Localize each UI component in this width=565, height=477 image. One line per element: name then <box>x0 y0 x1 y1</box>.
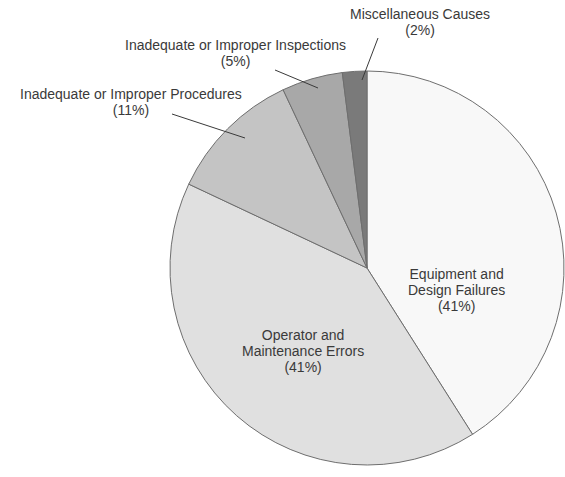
label-misc-name: Miscellaneous Causes <box>350 6 490 22</box>
label-equipment: Equipment and Design Failures (41%) <box>408 266 505 314</box>
label-inspections-pct: (5%) <box>125 53 346 69</box>
label-misc: Miscellaneous Causes (2%) <box>350 6 490 38</box>
pie-chart <box>0 0 565 477</box>
label-procedures-name: Inadequate or Improper Procedures <box>20 86 242 102</box>
label-misc-pct: (2%) <box>350 22 490 38</box>
label-operator-pct: (41%) <box>242 359 364 375</box>
label-inspections-name: Inadequate or Improper Inspections <box>125 37 346 53</box>
label-operator: Operator and Maintenance Errors (41%) <box>242 327 364 375</box>
label-equipment-pct: (41%) <box>408 298 505 314</box>
label-procedures: Inadequate or Improper Procedures (11%) <box>20 86 242 118</box>
label-equipment-line2: Design Failures <box>408 282 505 298</box>
label-procedures-pct: (11%) <box>20 102 242 118</box>
label-equipment-line1: Equipment and <box>408 266 505 282</box>
label-operator-line1: Operator and <box>242 327 364 343</box>
label-inspections: Inadequate or Improper Inspections (5%) <box>125 37 346 69</box>
label-operator-line2: Maintenance Errors <box>242 343 364 359</box>
